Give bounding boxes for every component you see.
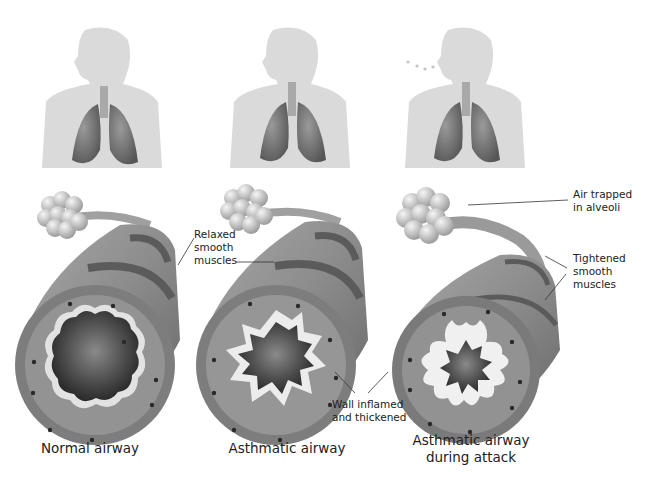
label-line: Relaxed [194, 228, 237, 241]
normal-airway-illustration [15, 191, 180, 445]
alveoli-cluster [37, 191, 88, 239]
label-line: muscles [573, 278, 626, 291]
label-line: Air trapped [573, 188, 632, 201]
caption-line: during attack [406, 449, 536, 466]
caption-normal-airway: Normal airway [30, 440, 150, 457]
attack-airway-illustration [392, 187, 560, 444]
alveoli-cluster-enlarged [396, 187, 454, 244]
exhaled-breath-dots-icon [406, 60, 434, 70]
caption-line: Asthmatic airway [406, 432, 536, 449]
person-silhouette-asthmatic [230, 28, 350, 168]
caption-asthmatic-airway-during-attack: Asthmatic airway during attack [406, 432, 536, 466]
label-relaxed-smooth-muscles: Relaxed smooth muscles [194, 228, 237, 267]
label-line: smooth [194, 241, 237, 254]
label-wall-inflamed-and-thickened: Wall inflamed and thickened [332, 398, 407, 424]
caption-asthmatic-airway: Asthmatic airway [222, 440, 352, 457]
alveoli-cluster [220, 184, 273, 234]
label-line: and thickened [332, 411, 407, 424]
label-air-trapped-in-alveoli: Air trapped in alveoli [573, 188, 632, 214]
label-tightened-smooth-muscles: Tightened smooth muscles [573, 252, 626, 291]
person-silhouette-attack [405, 28, 525, 168]
label-line: muscles [194, 254, 237, 267]
label-line: smooth [573, 265, 626, 278]
person-silhouette-normal [42, 28, 162, 168]
label-line: Tightened [573, 252, 626, 265]
label-line: Wall inflamed [332, 398, 407, 411]
label-line: in alveoli [573, 201, 632, 214]
asthma-diagram [0, 0, 647, 478]
